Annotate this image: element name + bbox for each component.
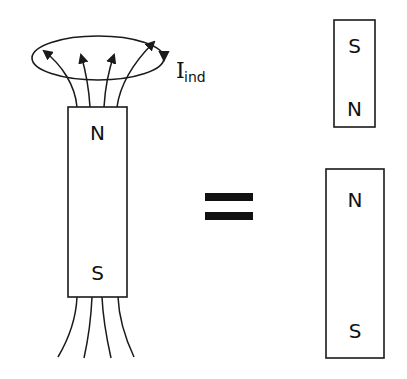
right-bottom-magnet: N S: [326, 169, 384, 358]
left-bar-magnet: N S: [68, 107, 127, 297]
right-bottom-magnet-south-label: S: [349, 319, 362, 343]
field-line-arrow-icon: [117, 42, 154, 107]
equals-sign: [205, 193, 253, 220]
field-lines-bottom: [58, 297, 134, 358]
left-magnet-north-label: N: [90, 121, 105, 145]
right-top-magnet-south-label: S: [348, 34, 361, 58]
current-subscript: ind: [184, 69, 206, 85]
field-lines-top: [44, 42, 154, 107]
field-line-arrow-icon: [81, 55, 90, 107]
right-top-magnet-north-label: N: [347, 97, 362, 121]
diagram-canvas: N S I ind S N N S: [0, 0, 407, 379]
right-bottom-magnet-north-label: N: [348, 188, 363, 212]
field-line-arrow-icon: [104, 55, 114, 107]
induced-current-label: I ind: [176, 58, 206, 85]
left-magnet-south-label: S: [91, 261, 104, 285]
right-top-magnet: S N: [334, 20, 375, 127]
